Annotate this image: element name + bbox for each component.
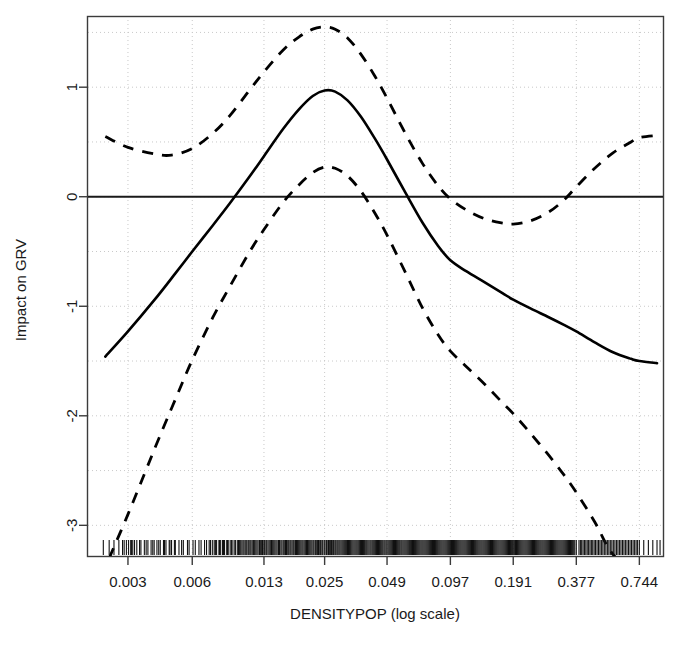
x-axis-title: DENSITYPOP (log scale) [290,605,460,622]
y-tick-label: -2 [64,409,81,422]
rug-plot [103,540,660,555]
grid-layer [88,16,663,556]
y-tick-label: -1 [64,300,81,313]
gam-partial-effect-plot: 0.0030.0060.0130.0250.0490.0970.1910.377… [0,0,691,645]
x-tick-label: 0.013 [245,573,283,590]
y-axis-tick-labels: 10-1-2-3 [64,83,81,532]
x-axis-tick-labels: 0.0030.0060.0130.0250.0490.0970.1910.377… [109,573,658,590]
series-layer [105,27,657,558]
x-tick-label: 0.025 [306,573,344,590]
y-axis-title: Impact on GRV [12,239,29,341]
chart-container: 0.0030.0060.0130.0250.0490.0970.1910.377… [0,0,691,645]
x-tick-label: 0.003 [109,573,147,590]
plot-frame [88,17,664,557]
x-tick-label: 0.744 [621,573,659,590]
fit-curve [105,90,657,363]
plot-border [88,17,664,557]
lower-confidence-band-curve [109,167,616,558]
x-tick-label: 0.097 [432,573,470,590]
y-tick-label: 1 [64,83,81,91]
x-axis-ticks [128,556,639,565]
x-tick-label: 0.049 [368,573,406,590]
upper-confidence-band-curve [105,27,657,224]
x-tick-label: 0.377 [558,573,596,590]
x-tick-label: 0.006 [173,573,211,590]
y-tick-label: -3 [64,519,81,532]
y-tick-label: 0 [64,193,81,201]
x-tick-label: 0.191 [494,573,532,590]
